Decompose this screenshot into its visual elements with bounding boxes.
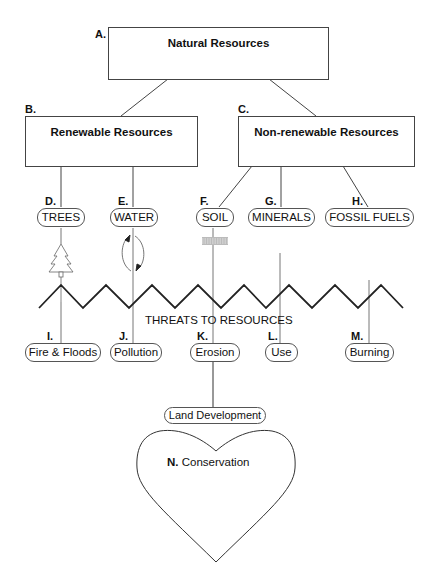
box-title: Non-renewable Resources (239, 126, 414, 138)
box-title: Natural Resources (109, 37, 328, 49)
pill-fossil-fuels: FOSSIL FUELS (325, 208, 414, 227)
soil-texture-icon (202, 237, 228, 245)
label-d: D. (45, 195, 56, 207)
pill-soil: SOIL (196, 208, 234, 227)
pill-minerals: MINERALS (248, 208, 315, 227)
pill-land-development: Land Development (164, 407, 266, 424)
label-j: J. (119, 330, 128, 342)
pill-burning: Burning (345, 343, 394, 362)
label-l: L. (268, 330, 278, 342)
box-natural-resources: Natural Resources (108, 27, 329, 80)
label-e: E. (118, 195, 128, 207)
label-g: G. (265, 195, 277, 207)
label-b: B. (25, 103, 36, 115)
label-h: H. (352, 195, 363, 207)
label-k: K. (197, 330, 208, 342)
box-title: Renewable Resources (26, 126, 197, 138)
pill-trees: TREES (37, 208, 85, 227)
connector-c-f (219, 166, 252, 207)
label-a: A. (95, 28, 106, 40)
conservation-heart (137, 430, 295, 562)
diagram-connectors (0, 0, 435, 586)
label-f: F. (200, 195, 209, 207)
pill-water: WATER (110, 208, 158, 227)
conservation-label: N. Conservation (167, 456, 249, 468)
pill-pollution: Pollution (110, 343, 162, 362)
connector-a-b (121, 79, 168, 116)
label-n: N. (167, 456, 179, 468)
connector-a-c (269, 79, 316, 116)
label-m: M. (351, 330, 363, 342)
pill-fire-floods: Fire & Floods (25, 343, 101, 362)
threats-zigzag (39, 285, 403, 308)
label-i: I. (47, 330, 53, 342)
box-nonrenewable-resources: Non-renewable Resources (238, 116, 415, 167)
pill-use: Use (265, 343, 298, 362)
label-c: C. (238, 103, 249, 115)
box-renewable-resources: Renewable Resources (25, 116, 198, 167)
pill-erosion: Erosion (190, 343, 240, 362)
threats-caption: THREATS TO RESOURCES (145, 314, 293, 326)
conservation-text: Conservation (182, 456, 250, 468)
